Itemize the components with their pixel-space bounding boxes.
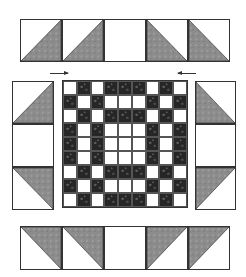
- half-square-triangle-icon: [147, 20, 187, 61]
- half-square-triangle-icon: [13, 82, 53, 123]
- center-cell-6-4: [118, 165, 132, 179]
- center-cell-7-6: [146, 179, 160, 193]
- center-block: [62, 80, 188, 208]
- right-unit-2: [195, 167, 236, 210]
- center-cell-6-3: [104, 165, 118, 179]
- center-cell-3-1: [77, 123, 91, 137]
- half-square-triangle-icon: [196, 168, 235, 209]
- half-square-triangle-icon: [21, 20, 61, 61]
- center-cell-1-6: [146, 95, 160, 109]
- arrow-left-icon: [178, 73, 196, 74]
- half-square-triangle-icon: [63, 20, 103, 61]
- center-cell-8-5: [132, 193, 146, 207]
- center-cell-6-5: [132, 165, 146, 179]
- half-square-triangle-icon: [189, 20, 229, 61]
- center-cell-4-5: [132, 137, 146, 151]
- top-unit-4: [188, 19, 230, 62]
- center-cell-2-1: [77, 109, 91, 123]
- center-cell-2-6: [146, 109, 160, 123]
- center-cell-2-3: [104, 109, 118, 123]
- center-cell-8-6: [146, 193, 160, 207]
- center-cell-7-8: [173, 179, 187, 193]
- center-cell-8-1: [77, 193, 91, 207]
- center-cell-7-5: [132, 179, 146, 193]
- top-border-row: [20, 19, 230, 62]
- center-cell-4-2: [91, 137, 105, 151]
- center-cell-0-8: [173, 81, 187, 95]
- left-border-column: [12, 81, 54, 210]
- center-cell-7-0: [63, 179, 77, 193]
- center-cell-5-0: [63, 151, 77, 165]
- center-cell-2-4: [118, 109, 132, 123]
- half-square-triangle-icon: [13, 168, 53, 209]
- center-cell-5-1: [77, 151, 91, 165]
- left-unit-2: [12, 167, 54, 210]
- center-cell-0-5: [132, 81, 146, 95]
- center-cell-0-2: [91, 81, 105, 95]
- center-cell-5-6: [146, 151, 160, 165]
- top-unit-3: [146, 19, 188, 62]
- half-square-triangle-icon: [147, 227, 187, 269]
- center-cell-2-8: [173, 109, 187, 123]
- bottom-unit-3: [146, 226, 188, 270]
- center-cell-3-6: [146, 123, 160, 137]
- center-cell-2-0: [63, 109, 77, 123]
- center-cell-8-7: [159, 193, 173, 207]
- center-cell-1-2: [91, 95, 105, 109]
- center-cell-2-7: [159, 109, 173, 123]
- center-cell-3-8: [173, 123, 187, 137]
- center-cell-4-3: [104, 137, 118, 151]
- center-cell-1-3: [104, 95, 118, 109]
- center-cell-8-0: [63, 193, 77, 207]
- center-cell-0-6: [146, 81, 160, 95]
- center-cell-5-2: [91, 151, 105, 165]
- half-square-triangle-icon: [196, 82, 235, 123]
- top-unit-0: [20, 19, 62, 62]
- center-cell-4-8: [173, 137, 187, 151]
- center-cell-0-4: [118, 81, 132, 95]
- center-cell-1-4: [118, 95, 132, 109]
- center-cell-5-5: [132, 151, 146, 165]
- bottom-border-row: [20, 226, 230, 270]
- center-cell-5-8: [173, 151, 187, 165]
- center-cell-6-1: [77, 165, 91, 179]
- center-cell-0-3: [104, 81, 118, 95]
- left-unit-0: [12, 81, 54, 124]
- half-square-triangle-icon: [21, 227, 61, 269]
- center-cell-0-1: [77, 81, 91, 95]
- center-cell-4-4: [118, 137, 132, 151]
- center-cell-8-4: [118, 193, 132, 207]
- center-cell-1-0: [63, 95, 77, 109]
- center-cell-8-3: [104, 193, 118, 207]
- center-cell-3-5: [132, 123, 146, 137]
- bottom-unit-4: [188, 226, 230, 270]
- half-square-triangle-icon: [189, 227, 229, 269]
- center-cell-7-2: [91, 179, 105, 193]
- bottom-unit-1: [62, 226, 104, 270]
- center-cell-3-2: [91, 123, 105, 137]
- bottom-unit-2: [104, 226, 146, 270]
- center-cell-6-7: [159, 165, 173, 179]
- center-cell-6-8: [173, 165, 187, 179]
- center-cell-2-2: [91, 109, 105, 123]
- center-cell-7-4: [118, 179, 132, 193]
- center-cell-3-7: [159, 123, 173, 137]
- right-unit-0: [195, 81, 236, 124]
- center-cell-8-2: [91, 193, 105, 207]
- center-cell-7-3: [104, 179, 118, 193]
- left-unit-1: [12, 124, 54, 167]
- center-cell-3-0: [63, 123, 77, 137]
- center-cell-4-7: [159, 137, 173, 151]
- center-cell-5-4: [118, 151, 132, 165]
- half-square-triangle-icon: [63, 227, 103, 269]
- center-cell-4-0: [63, 137, 77, 151]
- center-cell-5-7: [159, 151, 173, 165]
- center-cell-6-6: [146, 165, 160, 179]
- right-unit-1: [195, 124, 236, 167]
- center-cell-7-7: [159, 179, 173, 193]
- center-cell-1-7: [159, 95, 173, 109]
- right-border-column: [195, 81, 236, 210]
- center-cell-3-3: [104, 123, 118, 137]
- center-cell-1-1: [77, 95, 91, 109]
- center-cell-0-0: [63, 81, 77, 95]
